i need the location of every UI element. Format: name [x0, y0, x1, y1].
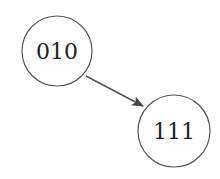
edge-arrow: [86, 76, 143, 106]
diagram-canvas: 010 111: [0, 0, 220, 179]
node-label: 010: [36, 39, 78, 64]
node-label: 111: [153, 119, 195, 144]
node-010: 010: [22, 16, 92, 86]
node-111: 111: [138, 95, 210, 167]
